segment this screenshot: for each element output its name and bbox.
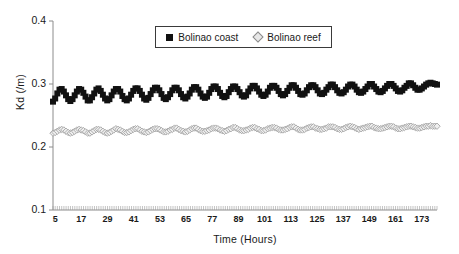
chart-figure: Kd (/m) Time (Hours) 0.40.30.20.1 517294… bbox=[0, 0, 459, 254]
legend-entry-bolinao-coast: Bolinao coast bbox=[166, 32, 238, 43]
x-tick-label: 113 bbox=[279, 214, 303, 224]
x-tick-label: 29 bbox=[96, 214, 120, 224]
series-bolinao-coast bbox=[50, 80, 440, 105]
legend-label-bolinao-coast: Bolinao coast bbox=[178, 32, 238, 43]
y-tick-label: 0.4 bbox=[20, 14, 46, 26]
y-tick-label: 0.2 bbox=[20, 140, 46, 152]
x-tick-label: 17 bbox=[69, 214, 93, 224]
x-tick-label: 89 bbox=[226, 214, 250, 224]
data-point-marker bbox=[434, 82, 440, 88]
chart-legend: Bolinao coast Bolinao reef bbox=[155, 26, 332, 48]
series-bolinao-reef bbox=[50, 122, 440, 136]
y-axis-label: Kd (/m) bbox=[14, 52, 26, 132]
legend-entry-bolinao-reef: Bolinao reef bbox=[254, 32, 320, 43]
x-tick-label: 5 bbox=[43, 214, 67, 224]
y-tick-label: 0.3 bbox=[20, 77, 46, 89]
x-tick-label: 77 bbox=[200, 214, 224, 224]
legend-label-bolinao-reef: Bolinao reef bbox=[267, 32, 320, 43]
x-minor-tick-marks bbox=[53, 206, 437, 210]
x-tick-label: 161 bbox=[384, 214, 408, 224]
x-tick-label: 101 bbox=[253, 214, 277, 224]
x-tick-label: 65 bbox=[174, 214, 198, 224]
y-tick-marks bbox=[49, 21, 53, 210]
x-tick-label: 125 bbox=[305, 214, 329, 224]
open-diamond-marker-icon bbox=[253, 31, 264, 42]
y-tick-label: 0.1 bbox=[20, 203, 46, 215]
x-tick-label: 149 bbox=[357, 214, 381, 224]
x-tick-label: 53 bbox=[148, 214, 172, 224]
x-tick-label: 137 bbox=[331, 214, 355, 224]
filled-square-marker-icon bbox=[166, 34, 173, 41]
x-tick-label: 173 bbox=[410, 214, 434, 224]
x-axis-label: Time (Hours) bbox=[53, 233, 437, 245]
x-tick-label: 41 bbox=[122, 214, 146, 224]
